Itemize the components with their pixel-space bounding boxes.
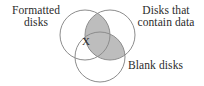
- venn-diagram-figure: Formatted disks Disks that contain data …: [0, 0, 204, 86]
- label-formatted-disks-line2: disks: [4, 16, 68, 28]
- label-formatted-disks-line1: Formatted: [4, 4, 68, 16]
- label-disks-that-contain-data-line1: Disks that: [128, 4, 204, 16]
- label-formatted-disks: Formatted disks: [4, 4, 68, 28]
- label-disks-that-contain-data-line2: contain data: [128, 16, 204, 28]
- label-blank-disks-line1: Blank disks: [128, 59, 200, 71]
- x-region-marker: X: [82, 36, 90, 47]
- label-disks-that-contain-data: Disks that contain data: [128, 4, 204, 28]
- label-blank-disks: Blank disks: [128, 59, 200, 71]
